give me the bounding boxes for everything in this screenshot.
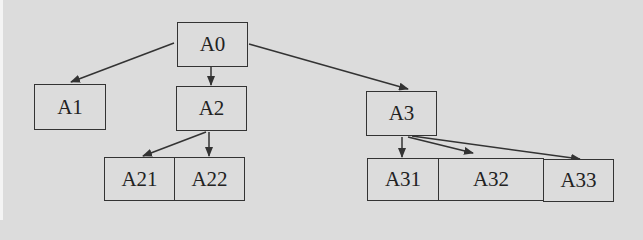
edge-a0-a3-arrow-icon: [249, 44, 408, 89]
node-a1: A1: [34, 84, 106, 130]
node-a31: A31: [367, 158, 439, 201]
node-a32-label: A32: [473, 167, 509, 192]
node-a0: A0: [177, 22, 248, 67]
edge-a2-a21-arrow-icon: [143, 132, 206, 156]
node-a2-label: A2: [199, 96, 225, 121]
node-a0-label: A0: [200, 32, 226, 57]
node-a31-label: A31: [385, 167, 421, 192]
node-a21-label: A21: [121, 167, 157, 192]
node-a33-label: A33: [560, 168, 596, 193]
node-a22-label: A22: [191, 167, 227, 192]
node-a2: A2: [176, 86, 247, 131]
node-a3: A3: [366, 91, 437, 136]
edge-a0-a1-arrow-icon: [71, 43, 174, 82]
edge-a3-a33-arrow-icon: [412, 136, 580, 159]
node-a1-label: A1: [57, 95, 83, 120]
node-a22: A22: [174, 157, 245, 201]
node-a32: A32: [438, 158, 544, 201]
node-a21: A21: [104, 157, 175, 201]
node-a3-label: A3: [389, 101, 415, 126]
node-a33: A33: [543, 159, 614, 202]
